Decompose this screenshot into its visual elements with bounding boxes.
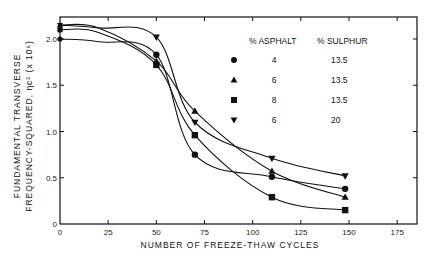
x-tick-label: 50 xyxy=(152,228,161,237)
triangle-up-marker-icon xyxy=(231,76,238,82)
x-tick-label: 150 xyxy=(342,228,356,237)
triangle-down-marker-icon xyxy=(231,118,238,124)
x-tick-label: 175 xyxy=(390,228,404,237)
y-axis-title-line1: FUNDAMENTAL TRANSVERSE xyxy=(12,54,22,199)
legend-header-asphalt: % ASPHALT xyxy=(249,36,297,46)
circle-marker-icon xyxy=(269,174,275,180)
x-tick-label: 125 xyxy=(294,228,308,237)
legend-asphalt-value: 6 xyxy=(272,75,277,85)
triangle-down-marker-icon xyxy=(342,173,349,179)
square-marker-icon xyxy=(231,97,237,103)
y-tick-label: 1.0 xyxy=(46,128,58,137)
data-markers xyxy=(57,22,349,213)
y-tick-label: 0 xyxy=(53,220,58,229)
circle-marker-icon xyxy=(231,57,237,63)
y-tick-label: 0.5 xyxy=(46,174,58,183)
data-curves xyxy=(60,24,345,210)
legend-sulphur-value: 13.5 xyxy=(331,75,348,85)
plot-border xyxy=(60,17,417,224)
x-tick-label: 0 xyxy=(58,228,63,237)
circle-marker-icon xyxy=(153,52,159,58)
y-tick-label: 2.0 xyxy=(46,35,58,44)
square-marker-icon xyxy=(192,132,198,138)
x-tick-label: 75 xyxy=(200,228,209,237)
plot-frame xyxy=(60,17,417,224)
circle-marker-icon xyxy=(57,36,62,41)
legend-asphalt-value: 8 xyxy=(272,95,277,105)
legend-asphalt-value: 4 xyxy=(272,55,277,65)
square-marker-icon xyxy=(153,62,159,68)
axis-ticks: 025507510012515017500.51.01.52.0 xyxy=(46,17,417,237)
legend-header-sulphur: % SULPHUR xyxy=(317,36,368,46)
legend-sulphur-value: 13.5 xyxy=(331,55,348,65)
legend-sulphur-value: 20 xyxy=(331,115,341,125)
legend-sulphur-value: 13.5 xyxy=(331,95,348,105)
legend-asphalt-value: 6 xyxy=(272,115,277,125)
x-tick-label: 100 xyxy=(246,228,260,237)
circle-marker-icon xyxy=(192,151,198,157)
y-axis-title-line2: FREQUENCY-SQUARED, ηc² (x 10⁶) xyxy=(24,40,34,212)
square-marker-icon xyxy=(342,207,348,213)
triangle-up-marker-icon xyxy=(268,167,275,173)
x-tick-label: 25 xyxy=(104,228,113,237)
chart: 025507510012515017500.51.01.52.0 % ASPHA… xyxy=(0,0,435,258)
circle-marker-icon xyxy=(342,186,348,192)
y-tick-label: 1.5 xyxy=(46,81,58,90)
legend: % ASPHALT % SULPHUR 413.5613.5813.5620 xyxy=(231,36,368,125)
square-marker-icon xyxy=(269,194,275,200)
x-axis-title: NUMBER OF FREEZE-THAW CYCLES xyxy=(141,240,320,250)
series-curve xyxy=(60,24,345,197)
series-curve xyxy=(60,25,345,176)
